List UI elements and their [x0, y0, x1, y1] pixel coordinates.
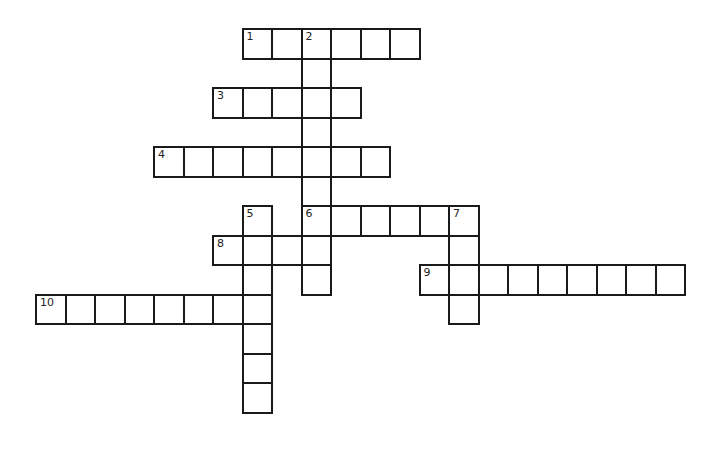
crossword-cell[interactable]: 1 [242, 28, 274, 60]
crossword-cell[interactable]: 2 [301, 28, 333, 60]
crossword-cell[interactable] [330, 146, 362, 178]
crossword-cell[interactable] [271, 28, 303, 60]
crossword-cell[interactable] [478, 264, 510, 296]
clue-number: 7 [453, 208, 460, 220]
crossword-cell[interactable] [242, 294, 274, 326]
crossword-cell[interactable] [301, 264, 333, 296]
crossword-cell[interactable] [655, 264, 687, 296]
crossword-cell[interactable] [242, 87, 274, 119]
clue-number: 2 [306, 31, 313, 43]
crossword-cell[interactable]: 5 [242, 205, 274, 237]
crossword-cell[interactable] [94, 294, 126, 326]
clue-number: 9 [424, 267, 431, 279]
crossword-cell[interactable] [625, 264, 657, 296]
crossword-cell[interactable] [448, 264, 480, 296]
crossword-cell[interactable]: 3 [212, 87, 244, 119]
crossword-cell[interactable]: 9 [419, 264, 451, 296]
crossword-cell[interactable] [360, 146, 392, 178]
crossword-cell[interactable] [507, 264, 539, 296]
crossword-cell[interactable] [212, 294, 244, 326]
crossword-cell[interactable] [448, 294, 480, 326]
crossword-cell[interactable]: 8 [212, 235, 244, 267]
crossword-cell[interactable] [183, 294, 215, 326]
crossword-cell[interactable] [301, 117, 333, 149]
crossword-cell[interactable]: 4 [153, 146, 185, 178]
crossword-cell[interactable] [301, 87, 333, 119]
crossword-cell[interactable] [271, 87, 303, 119]
crossword-cell[interactable] [448, 235, 480, 267]
clue-number: 3 [217, 90, 224, 102]
crossword-cell[interactable] [124, 294, 156, 326]
clue-number: 10 [40, 297, 54, 309]
crossword-cell[interactable] [330, 28, 362, 60]
clue-number: 6 [306, 208, 313, 220]
crossword-cell[interactable] [242, 264, 274, 296]
crossword-cell[interactable] [242, 353, 274, 385]
crossword-cell[interactable] [566, 264, 598, 296]
clue-number: 8 [217, 238, 224, 250]
crossword-cell[interactable] [242, 235, 274, 267]
crossword-cell[interactable] [301, 146, 333, 178]
crossword-cell[interactable] [330, 87, 362, 119]
crossword-cell[interactable] [301, 235, 333, 267]
crossword-cell[interactable] [389, 28, 421, 60]
crossword-cell[interactable] [389, 205, 421, 237]
crossword-grid: 12634578910 [0, 0, 726, 454]
crossword-cell[interactable] [242, 382, 274, 414]
crossword-cell[interactable] [242, 146, 274, 178]
crossword-cell[interactable] [330, 205, 362, 237]
crossword-cell[interactable] [242, 323, 274, 355]
crossword-cell[interactable] [419, 205, 451, 237]
crossword-cell[interactable] [301, 176, 333, 208]
crossword-cell[interactable]: 10 [35, 294, 67, 326]
crossword-cell[interactable] [537, 264, 569, 296]
clue-number: 4 [158, 149, 165, 161]
crossword-cell[interactable] [360, 205, 392, 237]
clue-number: 5 [247, 208, 254, 220]
crossword-cell[interactable] [596, 264, 628, 296]
crossword-cell[interactable] [271, 146, 303, 178]
crossword-cell[interactable] [65, 294, 97, 326]
crossword-cell[interactable] [301, 58, 333, 90]
crossword-cell[interactable] [153, 294, 185, 326]
crossword-cell[interactable] [360, 28, 392, 60]
clue-number: 1 [247, 31, 254, 43]
crossword-cell[interactable] [271, 235, 303, 267]
crossword-cell[interactable] [212, 146, 244, 178]
crossword-cell[interactable]: 7 [448, 205, 480, 237]
crossword-cell[interactable] [183, 146, 215, 178]
crossword-cell[interactable]: 6 [301, 205, 333, 237]
